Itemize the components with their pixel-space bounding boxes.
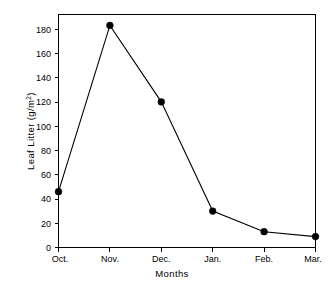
y-axis-title-tail: ) [25,92,36,96]
x-tick-label: Dec. [152,254,171,264]
x-tick-label: Nov. [101,254,119,264]
x-tick-label: Oct. [52,254,69,264]
x-tick-label: Jan. [204,254,221,264]
y-tick-label: 160 [36,49,51,59]
data-point-dec [158,98,165,105]
data-point-mar [312,233,319,240]
data-point-oct [55,188,62,195]
data-point-jan [209,208,216,215]
svg-text:Leaf Litter (g/m2): Leaf Litter (g/m2) [25,92,37,170]
y-axis-title: Leaf Litter (g/m2) [25,92,37,170]
x-tick-label: Mar. [304,254,322,264]
data-point-feb [261,228,268,235]
y-tick-label: 80 [41,146,51,156]
y-tick-label: 20 [41,219,51,229]
y-tick-label: 100 [36,122,51,132]
x-axis-title: Months [155,268,189,279]
y-tick-label: 40 [41,194,51,204]
data-point-nov [107,22,114,29]
y-tick-label: 180 [36,25,51,35]
y-tick-label: 60 [41,170,51,180]
y-tick-label: 0 [46,243,51,253]
y-axis-title-base: Leaf Litter (g/m [25,100,36,170]
y-tick-label: 120 [36,97,51,107]
chart-container: 0 20 40 60 80 100 120 140 160 180 Oct. N… [0,0,332,287]
y-tick-label: 140 [36,73,51,83]
leaf-litter-line-chart: 0 20 40 60 80 100 120 140 160 180 Oct. N… [0,0,332,287]
x-tick-label: Feb. [255,254,273,264]
